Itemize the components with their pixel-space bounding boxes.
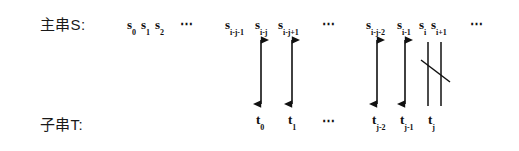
main-string-symbol: si-j-1 — [225, 18, 244, 35]
pattern-string-symbol-subscript: 0 — [260, 123, 264, 132]
main-string-row-label: 主串S: — [40, 13, 85, 34]
pattern-string-symbol-subscript: j-2 — [376, 123, 385, 132]
pattern-string-symbol: tj — [428, 113, 435, 130]
main-string-symbol: si-1 — [397, 18, 411, 35]
main-string-symbol: s1 — [141, 18, 150, 35]
pattern-string-symbol: tj-2 — [372, 113, 385, 130]
main-string-symbol-subscript: i-j+1 — [283, 28, 299, 37]
main-string-symbol: si+1 — [431, 18, 447, 35]
pattern-string-row-label: 子串T: — [40, 113, 83, 134]
main-string-symbol: s0 — [127, 18, 136, 35]
pattern-string-symbol: tj-1 — [400, 113, 413, 130]
main-string-ellipsis: ⋯ — [322, 17, 336, 30]
main-string-symbol-subscript: 0 — [132, 28, 136, 37]
main-string-ellipsis: ⋯ — [470, 17, 484, 30]
main-string-symbol: si-j-2 — [366, 18, 385, 35]
mismatch-slash — [421, 60, 450, 82]
main-string-symbol-subscript: i-1 — [402, 28, 411, 37]
pattern-string-symbol: t0 — [256, 113, 264, 130]
pattern-string-symbol-subscript: j-1 — [404, 123, 413, 132]
main-string-symbol-subscript: i — [424, 28, 426, 37]
pattern-string-symbol: t1 — [288, 113, 296, 130]
main-string-symbol-subscript: 2 — [160, 28, 164, 37]
pattern-string-ellipsis: ⋯ — [322, 114, 336, 127]
pattern-string-symbol-subscript: 1 — [292, 123, 296, 132]
main-string-symbol: si — [419, 18, 426, 35]
main-string-symbol: s2 — [155, 18, 164, 35]
main-string-symbol: si-j — [255, 18, 267, 35]
string-matching-figure: 主串S: 子串T: s0s1s2si-j-1si-jsi-j+1si-j-2si… — [0, 0, 519, 151]
main-string-ellipsis: ⋯ — [180, 17, 194, 30]
main-string-symbol-subscript: i+1 — [436, 28, 446, 37]
main-string-symbol-subscript: i-j-2 — [371, 28, 385, 37]
main-string-symbol-subscript: 1 — [146, 28, 150, 37]
main-string-symbol: si-j+1 — [278, 18, 299, 35]
main-string-symbol-subscript: i-j — [260, 28, 267, 37]
main-string-symbol-subscript: i-j-1 — [230, 28, 244, 37]
pattern-string-symbol-subscript: j — [432, 123, 435, 132]
